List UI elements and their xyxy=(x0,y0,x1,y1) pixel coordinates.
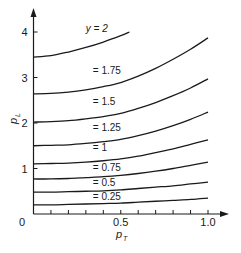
x-axis-arrow-icon xyxy=(220,211,229,217)
curve-label: = 0.25 xyxy=(93,191,122,202)
y-axis-title-sub: L xyxy=(14,113,21,117)
curve-label: = 1.25 xyxy=(93,122,122,133)
x-axis-title-sub: T xyxy=(123,235,128,242)
curve-label: = 0.75 xyxy=(93,162,122,173)
y-axis-arrow-icon xyxy=(31,8,37,17)
curve-1-5 xyxy=(34,79,209,122)
chart-container: 0.51.01234 y = 2= 1.75= 1.5= 1.25= 1= 0.… xyxy=(0,0,241,253)
x-tick-label: 1.0 xyxy=(200,216,215,228)
curve-label: = 1 xyxy=(93,142,108,153)
y-axis-title: p L xyxy=(7,113,21,125)
y-axis-title-main: p xyxy=(7,118,19,125)
x-axis-title-main: p xyxy=(115,228,122,240)
y-tick-label: 1 xyxy=(21,163,27,175)
curve-label: = 1.75 xyxy=(93,65,122,76)
x-tick-label: 0.5 xyxy=(113,216,128,228)
y-tick-label: 2 xyxy=(21,117,27,129)
curve-1 xyxy=(34,140,209,164)
origin-label: 0 xyxy=(19,216,25,228)
curves xyxy=(34,32,209,205)
curve-2 xyxy=(34,32,130,57)
y-tick-label: 4 xyxy=(21,26,27,38)
axes: 0.51.01234 xyxy=(21,8,229,228)
curve-label: = 1.5 xyxy=(93,96,116,107)
line-chart: 0.51.01234 y = 2= 1.75= 1.5= 1.25= 1= 0.… xyxy=(0,0,241,253)
curve-label: = 0.5 xyxy=(93,177,116,188)
curve-label: y = 2 xyxy=(85,23,108,34)
x-axis-title: p T xyxy=(115,228,128,242)
y-tick-label: 3 xyxy=(21,72,27,84)
